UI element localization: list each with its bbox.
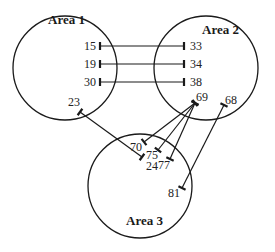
node-label-77: 77: [158, 158, 170, 172]
area2-label: Area 2: [202, 22, 239, 37]
node-label-23: 23: [68, 95, 80, 109]
node-label-30: 30: [84, 75, 96, 89]
areas-layer: [13, 16, 258, 238]
area-connection-diagram: Area 1Area 2Area 31519302333343869682470…: [0, 0, 275, 252]
node-label-70: 70: [130, 140, 142, 154]
endpoint-tick-23: [78, 109, 83, 115]
endpoint-tick-24: [140, 154, 145, 160]
node-label-69: 69: [196, 90, 208, 104]
node-label-15: 15: [84, 39, 96, 53]
node-label-38: 38: [190, 75, 202, 89]
connection-69-77: [170, 103, 195, 159]
node-label-33: 33: [190, 39, 202, 53]
area3-label: Area 3: [126, 213, 163, 228]
node-label-75: 75: [146, 148, 158, 162]
node-label-68: 68: [225, 93, 237, 107]
area1-label: Area 1: [48, 12, 85, 27]
area1-circle: [13, 16, 117, 120]
endpoint-tick-70: [142, 139, 147, 145]
node-label-34: 34: [190, 57, 202, 71]
node-label-81: 81: [168, 186, 180, 200]
node-label-19: 19: [84, 57, 96, 71]
